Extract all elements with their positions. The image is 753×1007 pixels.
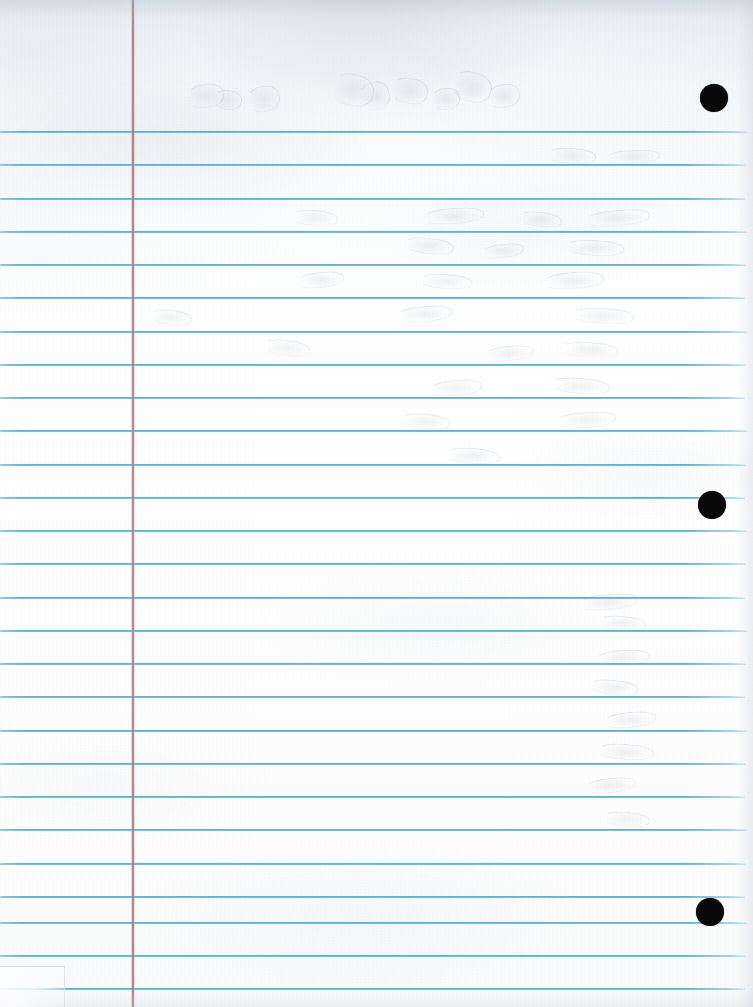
notebook-page (0, 0, 753, 1007)
paper-surface (0, 0, 753, 1007)
middle-hole (698, 491, 726, 519)
bottom-hole (696, 898, 724, 926)
top-hole (700, 84, 728, 112)
margin-line (132, 0, 134, 1007)
